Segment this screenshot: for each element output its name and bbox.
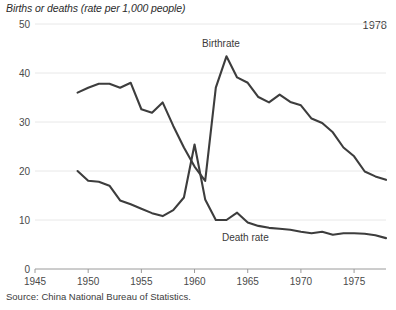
series-label-birthrate: Birthrate <box>202 38 240 49</box>
x-axis-ticks <box>35 269 354 273</box>
series-line-birthrate <box>78 56 386 180</box>
x-tick-label: 1960 <box>183 276 205 287</box>
x-tick-label: 1970 <box>290 276 312 287</box>
y-tick-label: 40 <box>4 68 30 79</box>
x-tick-label: 1945 <box>24 276 46 287</box>
x-tick-label: 1965 <box>237 276 259 287</box>
y-tick-label: 0 <box>4 264 30 275</box>
source-note: Source: China National Bureau of Statist… <box>6 291 191 302</box>
x-tick-label: 1975 <box>343 276 365 287</box>
x-tick-label: 1950 <box>77 276 99 287</box>
y-axis-tick-labels: 01020304050 <box>0 0 30 310</box>
plot-area <box>0 0 396 310</box>
series-label-death-rate: Death rate <box>222 232 269 243</box>
y-tick-label: 20 <box>4 166 30 177</box>
y-tick-label: 10 <box>4 215 30 226</box>
gridlines <box>35 24 386 220</box>
y-tick-label: 50 <box>4 19 30 30</box>
x-tick-label: 1955 <box>130 276 152 287</box>
y-tick-label: 30 <box>4 117 30 128</box>
data-series-lines <box>78 56 386 238</box>
series-line-death-rate <box>78 145 386 239</box>
birth-death-rate-chart: Births or deaths (rate per 1,000 people)… <box>0 0 396 310</box>
